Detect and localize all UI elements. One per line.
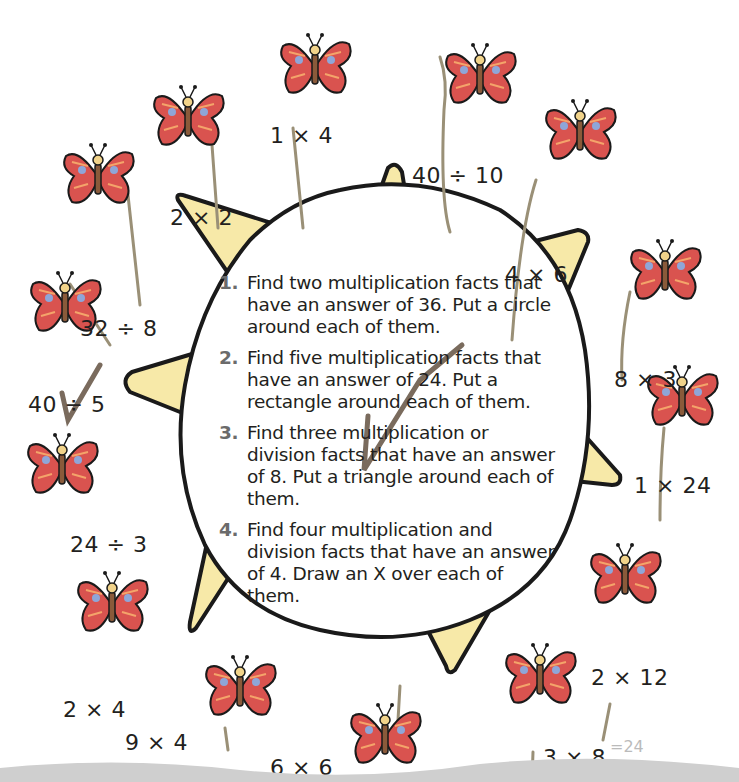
butterfly-icon <box>200 652 280 724</box>
fact-label[interactable]: 40 ÷ 5 <box>28 392 105 417</box>
instruction-number: 1. <box>215 272 247 338</box>
fact-label[interactable]: 40 ÷ 10 <box>412 163 504 188</box>
butterfly-icon <box>440 40 520 112</box>
fact-label[interactable]: 1 × 24 <box>634 473 711 498</box>
instruction-text: Find four multiplication and division fa… <box>247 519 560 607</box>
bottom-wave-band <box>0 752 739 782</box>
butterfly-icon <box>72 568 152 640</box>
butterfly-icon <box>625 236 705 308</box>
fact-label[interactable]: 8 × 3 <box>614 367 677 392</box>
instructions-list: 1. Find two multiplication facts that ha… <box>215 272 560 616</box>
butterfly-icon <box>500 640 580 712</box>
instruction-number: 3. <box>215 422 247 510</box>
fact-label[interactable]: 32 ÷ 8 <box>80 316 157 341</box>
instruction-2: 2. Find five multiplication facts that h… <box>215 347 560 413</box>
butterfly-icon <box>58 140 138 212</box>
fact-label[interactable]: 4 × 6 <box>505 262 568 287</box>
butterfly-icon <box>585 540 665 612</box>
fact-label[interactable]: 1 × 4 <box>270 123 333 148</box>
instruction-text: Find five multiplication facts that have… <box>247 347 560 413</box>
instruction-text: Find three multiplication or division fa… <box>247 422 560 510</box>
fact-label[interactable]: 2 × 4 <box>63 697 126 722</box>
instruction-number: 2. <box>215 347 247 413</box>
butterfly-icon <box>540 96 620 168</box>
fact-label[interactable]: 2 × 2 <box>170 205 233 230</box>
butterfly-icon <box>275 30 355 102</box>
butterfly-icon <box>22 430 102 502</box>
instruction-3: 3. Find three multiplication or division… <box>215 422 560 510</box>
butterfly-icon <box>148 82 228 154</box>
instruction-4: 4. Find four multiplication and division… <box>215 519 560 607</box>
fact-label[interactable]: 2 × 12 <box>591 665 668 690</box>
instruction-number: 4. <box>215 519 247 607</box>
fact-label[interactable]: 24 ÷ 3 <box>70 532 147 557</box>
